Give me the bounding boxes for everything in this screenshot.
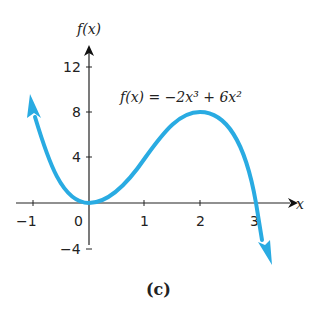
- x-axis-label: x: [296, 196, 304, 212]
- curve-arrow-right-icon: [258, 240, 272, 265]
- y-tick-label: −4: [60, 241, 81, 257]
- function-label: f(x) = −2x³ + 6x²: [119, 89, 242, 105]
- curve-arrow-left-icon: [27, 94, 41, 118]
- y-tick-label: 12: [63, 59, 81, 75]
- y-tick-label: 4: [72, 149, 81, 165]
- x-tick-label: 1: [140, 213, 149, 229]
- y-axis-label: f(x): [76, 21, 101, 37]
- x-tick-label: 0: [74, 213, 83, 229]
- x-tick-label: 2: [196, 213, 205, 229]
- y-tick-label: 8: [72, 104, 81, 120]
- chart: x f(x) −1 0 1 2 3 12 8 4 −4 f(x) = −2x³ …: [0, 0, 313, 313]
- x-tick-label: −1: [16, 213, 37, 229]
- figure-caption: (c): [146, 280, 171, 299]
